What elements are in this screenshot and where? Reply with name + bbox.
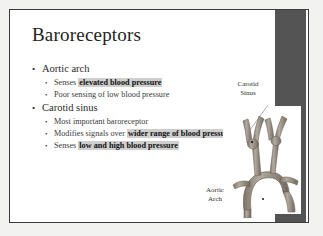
bullet-text-lead: Modifies signals over [54,129,127,138]
bullet-marker-icon: • [45,89,47,101]
bullet-most-important-baroreceptor: • Most important baroreceptor [30,116,245,128]
bullet-carotid-sinus: • Carotid sinus [30,101,245,115]
bullet-text: Aortic arch [42,63,90,74]
figure-label-line1: Carotid [228,80,268,89]
highlighted-phrase: low and high blood pressure [78,141,178,150]
bullet-marker-icon: • [45,116,47,128]
figure-label-line1: Aortic [198,186,232,195]
bullet-marker-icon: • [45,140,47,152]
bullet-modifies-signals: • Modifies signals over wider range of b… [30,128,245,140]
highlighted-phrase: wider range of blood pressure [127,129,233,138]
page-background: Baroreceptors • Aortic arch • Senses ele… [0,0,323,236]
figure-label-carotid-sinus: Carotid Sinus [228,80,268,97]
bullet-senses-low-high-bp: • Senses low and high blood pressure [30,140,245,152]
bullet-marker-icon: • [45,128,47,140]
bullet-text: Poor sensing of low blood pressure [54,90,169,99]
bullet-aortic-arch: • Aortic arch [30,62,245,76]
figure-label-line2: Arch [198,195,232,204]
presentation-slide: Baroreceptors • Aortic arch • Senses ele… [9,9,309,223]
slide-title: Baroreceptors [32,24,141,46]
carotid-sinus-leader-line [246,104,270,132]
bullet-marker-icon: • [32,101,35,115]
bullet-text-lead: Senses [54,78,78,87]
figure-label-aortic-arch: Aortic Arch [198,186,232,203]
bullet-text: Most important baroreceptor [54,117,148,126]
slide-body-content: • Aortic arch • Senses elevated blood pr… [30,62,245,152]
bullet-marker-icon: • [45,77,47,89]
bullet-senses-elevated-bp: • Senses elevated blood pressure [30,77,245,89]
bullet-text: Carotid sinus [42,102,98,113]
figure-label-line2: Sinus [228,89,268,98]
bullet-text-lead: Senses [54,141,78,150]
bullet-poor-sensing-low-bp: • Poor sensing of low blood pressure [30,89,245,101]
bullet-marker-icon: • [32,62,35,76]
highlighted-phrase: elevated blood pressure [78,78,162,87]
